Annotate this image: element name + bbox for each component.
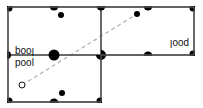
object-ball-reflection-2 <box>134 11 140 17</box>
pool-reflection-diagram: pool pool pool <box>0 0 203 108</box>
pocket-icon <box>49 50 60 61</box>
cue-ball <box>19 82 25 88</box>
label-original: pool <box>15 57 34 68</box>
label-reflection-top-right: pool <box>170 38 189 49</box>
label-reflection-top: pool <box>15 46 34 57</box>
object-ball-reflection-1 <box>58 12 64 18</box>
object-ball <box>59 90 65 96</box>
